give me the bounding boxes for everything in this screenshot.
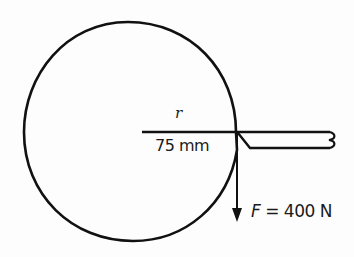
radius-symbol-label: r — [175, 104, 182, 122]
force-symbol: F — [251, 201, 260, 221]
force-equals: = — [260, 201, 284, 221]
radius-value-label: 75 mm — [155, 136, 209, 155]
force-label: F = 400 N — [251, 201, 332, 221]
spanner-break-mark — [329, 132, 334, 148]
diagram-canvas: r 75 mm F = 400 N — [0, 0, 354, 257]
force-arrow-head — [232, 208, 242, 222]
spanner-handle — [238, 133, 330, 148]
force-value: 400 N — [284, 201, 332, 221]
